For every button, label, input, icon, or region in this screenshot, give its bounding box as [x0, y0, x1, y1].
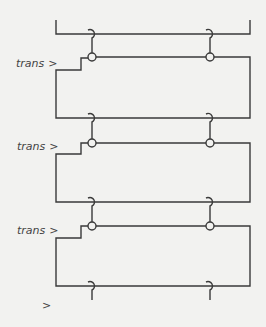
top-bus	[56, 20, 250, 34]
trans-label: trans	[17, 224, 45, 237]
prompt-arrow-icon: >	[49, 140, 58, 153]
hook-crossover-icon	[88, 198, 94, 222]
circle-node-icon	[206, 139, 214, 147]
stage-1	[56, 30, 250, 118]
stage-loop	[56, 143, 250, 202]
hook-crossover-icon	[206, 30, 212, 53]
stage-2-label: trans>	[17, 141, 59, 153]
circle-node-icon	[88, 222, 96, 230]
prompt-arrow-icon: >	[49, 224, 58, 237]
circle-node-icon	[206, 53, 214, 61]
circuit-diagram	[0, 0, 266, 327]
stage-3-label: trans>	[17, 225, 59, 237]
trans-label: trans	[16, 57, 44, 70]
prompt-arrow-icon: >	[48, 57, 57, 70]
circle-node-icon	[88, 139, 96, 147]
hook-crossover-icon	[88, 30, 94, 53]
prompt-arrow-icon: >	[42, 299, 51, 312]
trans-label: trans	[17, 140, 45, 153]
hook-crossover-icon	[206, 282, 212, 300]
final-prompt: >	[38, 300, 51, 312]
bottom-outputs	[88, 282, 212, 300]
hook-crossover-icon	[206, 198, 212, 222]
circle-node-icon	[206, 222, 214, 230]
stage-1-label: trans>	[16, 58, 58, 70]
stage-loop	[56, 226, 250, 286]
diagram-canvas: trans> trans> trans> >	[0, 0, 266, 327]
stage-loop	[56, 57, 250, 118]
hook-crossover-icon	[88, 282, 94, 300]
stage-2	[56, 114, 250, 202]
circle-node-icon	[88, 53, 96, 61]
stage-3	[56, 198, 250, 286]
